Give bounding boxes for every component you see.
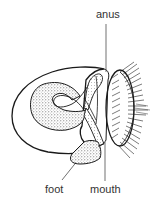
label-anus: anus [96, 9, 120, 20]
label-mouth: mouth [90, 184, 121, 195]
diagram-canvas: anus foot mouth [0, 0, 161, 208]
veliger-larva-illustration [0, 0, 161, 208]
label-foot: foot [45, 184, 63, 195]
velum-disc [106, 70, 134, 146]
apical-tuft [134, 104, 150, 114]
